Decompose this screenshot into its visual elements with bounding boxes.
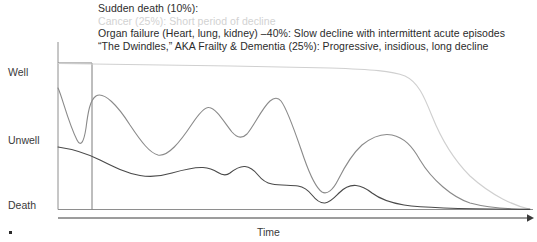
time-axis-arrowhead-icon xyxy=(527,214,534,222)
x-axis-label: Time xyxy=(0,226,537,238)
corner-marker-dot xyxy=(9,231,12,234)
curve-cancer xyxy=(58,64,530,210)
curve-organ-failure xyxy=(58,88,530,209)
legend-cancer: Cancer (25%): Short period of decline xyxy=(98,15,530,28)
legend-sudden-death: Sudden death (10%): xyxy=(98,2,530,15)
y-axis-tick-well: Well xyxy=(8,66,28,78)
figure-legend: Sudden death (10%): Cancer (25%): Short … xyxy=(98,2,530,52)
y-axis-tick-death: Death xyxy=(8,199,36,211)
legend-organ-failure: Organ failure (Heart, lung, kidney) –40%… xyxy=(98,27,530,40)
illness-trajectory-figure: Sudden death (10%): Cancer (25%): Short … xyxy=(0,0,537,242)
y-axis-tick-unwell: Unwell xyxy=(8,134,40,146)
legend-dwindles: “The Dwindles,” AKA Frailty & Dementia (… xyxy=(98,40,530,53)
curve-dwindles xyxy=(58,147,530,209)
